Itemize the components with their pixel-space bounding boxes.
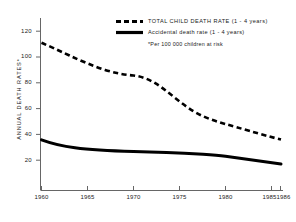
x-tick-label-1986: 1986 bbox=[271, 194, 296, 200]
y-tick-label-80: 80 bbox=[10, 79, 32, 85]
y-tick-label-100: 100 bbox=[10, 53, 32, 59]
y-tick-label-20: 20 bbox=[10, 157, 32, 163]
x-tick-label-1975: 1975 bbox=[167, 194, 193, 200]
y-tick-label-120: 120 bbox=[10, 28, 32, 34]
y-tick-label-40: 40 bbox=[10, 131, 32, 137]
x-tick-label-1965: 1965 bbox=[75, 194, 101, 200]
solid-line-swatch bbox=[116, 27, 143, 38]
x-axis-ticks bbox=[42, 186, 281, 191]
legend-footnote: *Per 100 000 children at risk bbox=[148, 39, 292, 50]
y-axis-title: ANNUAL DEATH RATES* bbox=[16, 44, 22, 154]
series-total-child-death-rate-line bbox=[42, 43, 282, 140]
legend-label-accidental-death-rate: Accidental death rate (1 - 4 years) bbox=[148, 27, 245, 38]
y-tick-label-60: 60 bbox=[10, 105, 32, 111]
dashed-line-swatch bbox=[116, 16, 143, 27]
legend-item-total-child-death-rate: TOTAL CHILD DEATH RATE (1 - 4 years) bbox=[116, 16, 292, 27]
legend-label-total-child-death-rate: TOTAL CHILD DEATH RATE (1 - 4 years) bbox=[148, 16, 268, 27]
x-tick-label-1980: 1980 bbox=[213, 194, 239, 200]
series-accidental-death-rate-line bbox=[42, 140, 282, 164]
legend-item-accidental-death-rate: Accidental death rate (1 - 4 years) bbox=[116, 27, 292, 38]
chart-container: TOTAL CHILD DEATH RATE (1 - 4 years) Acc… bbox=[0, 0, 295, 222]
y-axis-ticks bbox=[36, 31, 41, 160]
x-tick-label-1960: 1960 bbox=[29, 194, 55, 200]
chart-legend: TOTAL CHILD DEATH RATE (1 - 4 years) Acc… bbox=[116, 16, 292, 50]
x-tick-label-1970: 1970 bbox=[121, 194, 147, 200]
